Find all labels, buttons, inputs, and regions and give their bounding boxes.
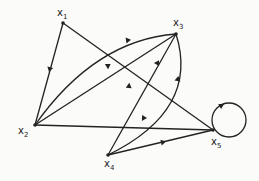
node-x5 (211, 128, 215, 132)
label-x2: x2 (18, 126, 28, 139)
label-subscript: 5 (217, 142, 221, 150)
node-x3 (174, 32, 178, 36)
arrow-icon (160, 139, 166, 146)
label-x4: x4 (104, 159, 114, 172)
edge-x5-self-loop (212, 103, 246, 137)
edge-x1-x5 (63, 23, 213, 130)
label-subscript: 3 (179, 23, 183, 31)
arrow-icon (126, 83, 134, 91)
arrow-icon (142, 115, 147, 121)
arrow-icon (105, 61, 112, 69)
label-subscript: 4 (110, 164, 114, 172)
label-x3: x3 (173, 18, 183, 31)
edge-x4-x5 (108, 130, 213, 155)
node-x4 (106, 153, 110, 157)
label-x5: x5 (211, 137, 221, 150)
label-x1: x1 (57, 8, 67, 21)
edge-x4-x3 (108, 34, 176, 155)
node-x1 (61, 21, 65, 25)
node-x2 (33, 123, 37, 127)
arrow-icon (126, 37, 132, 44)
label-subscript: 2 (24, 131, 28, 139)
graph-diagram: x1 x2 x3 x4 x5 (0, 0, 259, 181)
label-subscript: 1 (63, 13, 67, 21)
graph-edges (0, 0, 259, 181)
